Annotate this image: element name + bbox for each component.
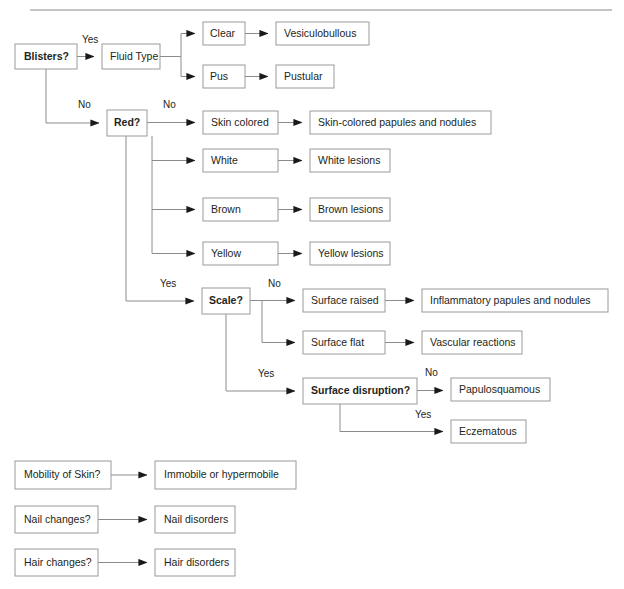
node-nail-disorders[interactable]: Nail disorders <box>155 506 235 533</box>
node-clear-label: Clear <box>210 27 236 39</box>
node-vesiculobullous-label: Vesiculobullous <box>284 27 356 39</box>
edge-scale-to-surface-disruption <box>226 314 295 391</box>
node-hair-disorders-label: Hair disorders <box>164 556 229 568</box>
node-skin-colored-papules-label: Skin-colored papules and nodules <box>318 116 476 128</box>
flowchart-diagram: Blisters? Fluid Type Clear Vesiculobullo… <box>0 0 624 589</box>
node-vascular-reactions[interactable]: Vascular reactions <box>422 331 522 354</box>
node-mobility-of-skin-label: Mobility of Skin? <box>24 468 101 480</box>
node-surface-disruption-label: Surface disruption? <box>311 384 410 396</box>
node-brown-lesions[interactable]: Brown lesions <box>310 198 390 221</box>
edge-fluidtype-to-clear <box>181 34 195 57</box>
node-yellow-lesions-label: Yellow lesions <box>318 247 384 259</box>
node-nail-changes-label: Nail changes? <box>24 513 91 525</box>
node-surface-disruption[interactable]: Surface disruption? <box>303 378 417 404</box>
node-brown[interactable]: Brown <box>203 198 278 221</box>
node-hair-changes-label: Hair changes? <box>24 556 92 568</box>
node-white-lesions-label: White lesions <box>318 154 380 166</box>
node-blisters-label: Blisters? <box>24 50 69 62</box>
nodes-group: Blisters? Fluid Type Clear Vesiculobullo… <box>15 22 608 576</box>
node-immobile-or-hypermobile[interactable]: Immobile or hypermobile <box>155 461 296 489</box>
node-red[interactable]: Red? <box>107 110 147 136</box>
node-yellow-lesions[interactable]: Yellow lesions <box>310 242 390 265</box>
node-scale[interactable]: Scale? <box>202 288 250 314</box>
node-white-lesions[interactable]: White lesions <box>310 149 390 172</box>
node-scale-label: Scale? <box>209 294 243 306</box>
node-eczematous[interactable]: Eczematous <box>451 420 526 443</box>
node-vascular-reactions-label: Vascular reactions <box>430 336 516 348</box>
node-surface-flat[interactable]: Surface flat <box>303 331 385 354</box>
node-yellow-label: Yellow <box>211 247 241 259</box>
node-mobility-of-skin[interactable]: Mobility of Skin? <box>15 461 111 489</box>
node-immobile-or-hypermobile-label: Immobile or hypermobile <box>164 468 279 480</box>
edge-label-blisters-no: No <box>78 99 91 110</box>
node-vesiculobullous[interactable]: Vesiculobullous <box>276 22 369 45</box>
edge-label-disruption-no: No <box>425 367 438 378</box>
node-inflammatory[interactable]: Inflammatory papules and nodules <box>422 289 608 312</box>
node-pustular[interactable]: Pustular <box>276 65 334 88</box>
edge-label-red-yes: Yes <box>160 278 176 289</box>
edge-labels-group: Yes No No Yes No Yes No Yes <box>78 34 438 420</box>
node-skin-colored[interactable]: Skin colored <box>203 111 278 134</box>
node-surface-flat-label: Surface flat <box>311 336 364 348</box>
edge-fluidtype-to-pus <box>181 57 195 77</box>
node-brown-lesions-label: Brown lesions <box>318 203 383 215</box>
node-blisters[interactable]: Blisters? <box>15 44 77 69</box>
node-yellow[interactable]: Yellow <box>203 242 278 265</box>
node-papulosquamous-label: Papulosquamous <box>459 383 540 395</box>
edge-scale-to-surface-flat <box>262 301 295 343</box>
node-nail-disorders-label: Nail disorders <box>164 513 228 525</box>
node-red-label: Red? <box>114 116 140 128</box>
node-pus[interactable]: Pus <box>203 65 245 88</box>
node-nail-changes[interactable]: Nail changes? <box>15 506 98 533</box>
edge-label-disruption-yes: Yes <box>415 409 431 420</box>
node-surface-raised[interactable]: Surface raised <box>303 289 385 312</box>
edge-label-scale-yes: Yes <box>258 368 274 379</box>
node-white-label: White <box>211 154 238 166</box>
node-hair-changes[interactable]: Hair changes? <box>15 549 98 576</box>
node-clear[interactable]: Clear <box>203 22 245 45</box>
node-eczematous-label: Eczematous <box>459 425 517 437</box>
node-hair-disorders[interactable]: Hair disorders <box>155 549 235 576</box>
edge-label-red-no: No <box>163 99 176 110</box>
node-white[interactable]: White <box>203 149 278 172</box>
edge-blisters-to-red <box>46 69 99 123</box>
edge-label-scale-no: No <box>268 278 281 289</box>
node-skin-colored-papules[interactable]: Skin-colored papules and nodules <box>310 111 491 134</box>
node-inflammatory-label: Inflammatory papules and nodules <box>430 294 591 306</box>
node-pustular-label: Pustular <box>284 70 323 82</box>
node-pus-label: Pus <box>210 70 228 82</box>
node-surface-raised-label: Surface raised <box>311 294 379 306</box>
node-fluid-type-label: Fluid Type <box>110 50 158 62</box>
edge-label-blisters-yes: Yes <box>82 34 98 45</box>
node-skin-colored-label: Skin colored <box>211 116 269 128</box>
node-papulosquamous[interactable]: Papulosquamous <box>451 378 550 401</box>
node-fluid-type[interactable]: Fluid Type <box>102 44 160 69</box>
node-brown-label: Brown <box>211 203 241 215</box>
